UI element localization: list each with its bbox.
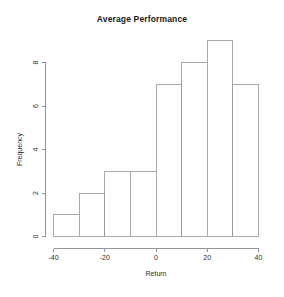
x-axis-tick-label: 20 — [203, 254, 211, 261]
y-axis-tick-label: 0 — [32, 234, 39, 238]
histogram-bar — [54, 215, 80, 237]
x-axis: -40-2002040 — [48, 249, 262, 262]
histogram-bar — [79, 193, 105, 237]
histogram-bar — [130, 171, 156, 236]
x-axis-tick-label: -40 — [48, 254, 58, 261]
histogram-bar — [156, 84, 182, 236]
x-axis-tick-label: 0 — [154, 254, 158, 261]
histogram-bar — [207, 41, 233, 237]
bars-group — [54, 41, 259, 237]
y-axis-title: Frequency — [16, 132, 24, 166]
y-axis-tick-label: 2 — [32, 191, 39, 195]
y-axis-tick-label: 6 — [32, 104, 39, 108]
histogram-bar — [105, 171, 131, 236]
x-axis-tick-label: 40 — [255, 254, 263, 261]
x-axis-title: Return — [145, 270, 166, 277]
histogram-figure: Average Performance 02468 -40-2002040 Re… — [0, 0, 284, 297]
histogram-bar — [233, 84, 259, 236]
x-axis-tick-label: -20 — [100, 254, 110, 261]
y-axis-tick-label: 4 — [32, 147, 39, 151]
plot-area: 02468 -40-2002040 ReturnFrequency — [0, 0, 284, 297]
y-axis: 02468 — [32, 60, 45, 238]
y-axis-tick-label: 8 — [32, 60, 39, 64]
histogram-bar — [182, 63, 208, 237]
